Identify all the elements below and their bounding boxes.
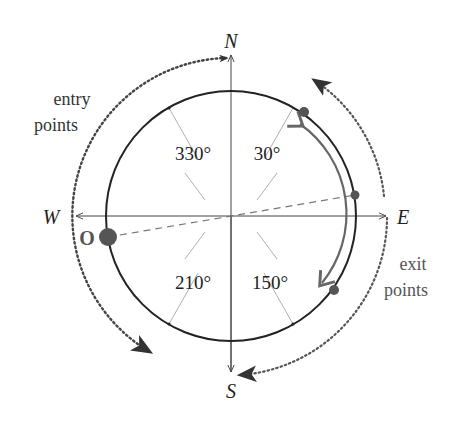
exit-point-bottom: [329, 285, 339, 295]
east-label: E: [396, 206, 409, 228]
west-label: W: [43, 206, 62, 228]
exit-dotted-arc-upper: [314, 80, 384, 196]
exit-point-middle: [351, 191, 360, 200]
exit-range-arc: [300, 124, 346, 283]
angle-label-210: 210°: [175, 272, 211, 293]
entry-dotted-arc: [72, 58, 226, 352]
exit-point-top: [299, 107, 309, 117]
entry-label-line2: points: [34, 115, 78, 135]
north-label: N: [223, 30, 239, 52]
axes: [76, 55, 386, 372]
origin-label: O: [79, 227, 95, 249]
entry-label-line1: entry: [54, 89, 91, 109]
angle-label-30: 30°: [254, 143, 281, 164]
exit-dotted-arc: [240, 218, 387, 375]
south-label: S: [226, 380, 236, 402]
exit-label-line1: exit: [400, 254, 427, 274]
exit-label-line2: points: [384, 280, 428, 300]
origin-point: [99, 228, 117, 246]
compass-diagram: N S E W 330° 30° 210° 150° O entry point…: [0, 0, 464, 426]
angle-label-330: 330°: [175, 143, 211, 164]
angle-label-150: 150°: [252, 272, 288, 293]
